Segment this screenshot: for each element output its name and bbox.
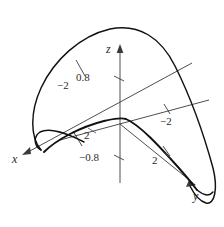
tick-label-x-negative: −2 (57, 80, 69, 91)
y-axis-line (60, 100, 209, 140)
curve-group (33, 28, 216, 203)
curve-right-loop (197, 190, 213, 195)
z-tick-negative (114, 155, 124, 160)
axis-label-x: x (12, 153, 17, 165)
axis-label-y: y (193, 190, 198, 202)
curve-inner-saddle (44, 118, 197, 190)
z-axis-arrowhead (117, 44, 124, 53)
tick-label-y-negative: −2 (160, 116, 172, 127)
y-tick-negative (164, 104, 170, 114)
tick-label-y-positive: 2 (152, 155, 158, 166)
axis-group (22, 44, 209, 187)
tick-label-z-negative: −0.8 (79, 152, 99, 163)
axis-label-z: z (106, 43, 111, 55)
plot-canvas (0, 0, 224, 227)
tick-label-z-positive: 0.8 (76, 72, 90, 83)
math-figure-3d-curve: z x y 0.8 −0.8 −2 −2 2 2 (0, 0, 224, 227)
tick-label-x-positive: 2 (84, 130, 90, 141)
x-axis-arrowhead (22, 147, 31, 155)
x-axis-line (28, 63, 192, 152)
z-tick-positive (114, 76, 124, 81)
curve-outer-arc (33, 28, 216, 203)
